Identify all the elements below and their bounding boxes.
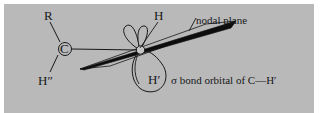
label-nodal-plane: nodal plane — [196, 15, 247, 26]
label-h: H — [154, 9, 163, 22]
nodal-plane-shaded-edge — [80, 21, 236, 70]
label-h-prime: H′ — [148, 73, 160, 86]
label-sigma-bond-orbital: σ bond orbital of C—H′ — [171, 75, 277, 86]
bond-c-hdouble-prime — [50, 55, 58, 72]
orbital-diagram-figure: R C H″ H H′ nodal plane σ bond orbital o… — [0, 0, 322, 113]
bond-c-r — [50, 22, 60, 42]
bond-c-center — [72, 49, 138, 50]
nodal-plane-parallelogram — [80, 21, 236, 70]
label-h-double-prime: H″ — [38, 74, 53, 87]
label-r-group: R — [44, 9, 53, 22]
label-carbon: C — [60, 42, 69, 55]
